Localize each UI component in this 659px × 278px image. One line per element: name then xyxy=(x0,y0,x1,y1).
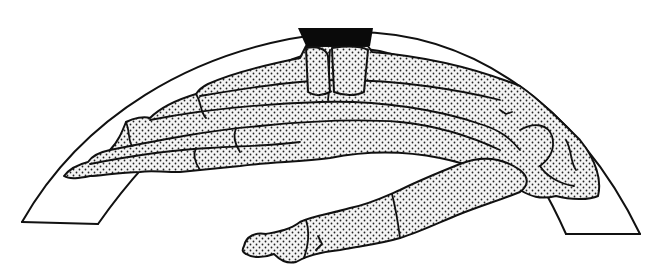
thumb-bones xyxy=(243,159,527,263)
center-bones xyxy=(306,47,368,95)
hand-skeleton-illustration xyxy=(0,0,659,278)
black-block xyxy=(298,28,373,46)
center-bone-left xyxy=(306,47,330,95)
arch-left-base xyxy=(22,222,98,224)
hand-bones-lower-digit xyxy=(243,159,527,263)
center-bone-right xyxy=(332,47,368,95)
